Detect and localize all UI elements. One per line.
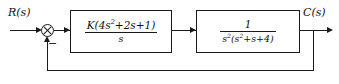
feedback-horizontal-line [47, 70, 314, 71]
controller-transfer-function: K(4s2+2s+1) s [85, 19, 158, 43]
output-arrow-icon [327, 27, 333, 33]
controller-block: K(4s2+2s+1) s [70, 10, 172, 53]
controller-denominator: s [117, 33, 126, 44]
output-label-cs: C(s) [303, 6, 326, 19]
plant-transfer-function: 1 s2(s2+s+4) [220, 19, 276, 44]
input-label-rs: R(s) [8, 6, 31, 19]
block-diagram-canvas: R(s) − K(4s2+2s+1) s 1 s2(s2+s+4) C(s) [0, 0, 339, 84]
output-line [300, 30, 330, 31]
feedback-arrow-icon [44, 36, 50, 42]
feedback-vertical-right [313, 30, 314, 71]
controller-numerator: K(4s2+2s+1) [85, 19, 158, 32]
feedback-vertical-left [47, 40, 48, 71]
plant-numerator: 1 [243, 19, 254, 31]
plant-block: 1 s2(s2+s+4) [196, 10, 300, 53]
plant-denominator: s2(s2+s+4) [220, 32, 276, 44]
